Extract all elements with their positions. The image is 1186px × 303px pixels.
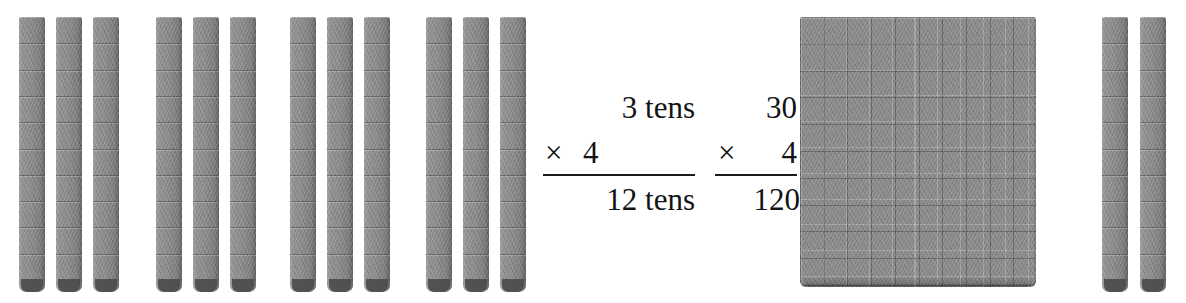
rod-unit-divider (1102, 122, 1128, 123)
rod-unit-divider (19, 175, 45, 176)
rod-unit-divider (426, 43, 452, 44)
rod-unit-divider (156, 227, 182, 228)
rod-unit-divider (327, 43, 353, 44)
rod-unit-divider (56, 254, 82, 255)
rod-unit-divider (156, 70, 182, 71)
rod-unit-divider (19, 43, 45, 44)
rod-unit-divider (93, 201, 119, 202)
rod-bottom-shadow (158, 279, 181, 292)
rod-unit-divider (1140, 43, 1166, 44)
rod-bottom-shadow (95, 279, 118, 292)
rod-unit-divider (1102, 43, 1128, 44)
rod-unit-divider (19, 122, 45, 123)
rod-unit-divider (500, 149, 526, 150)
rod-unit-divider (290, 254, 316, 255)
ten-rod (56, 17, 82, 292)
rod-unit-divider (93, 96, 119, 97)
rod-bottom-shadow (465, 279, 488, 292)
rod-unit-divider (500, 122, 526, 123)
rod-unit-divider (56, 43, 82, 44)
standard-multiplicand: 30 (766, 92, 797, 123)
rod-bottom-shadow (329, 279, 352, 292)
rod-texture (426, 17, 452, 292)
rod-unit-divider (1102, 227, 1128, 228)
rod-unit-divider (193, 122, 219, 123)
rod-bottom-shadow (1142, 279, 1165, 292)
standard-operator: × (718, 137, 735, 168)
rod-unit-divider (290, 201, 316, 202)
rod-unit-divider (230, 227, 256, 228)
rod-unit-divider (463, 175, 489, 176)
rod-unit-divider (230, 70, 256, 71)
rod-unit-divider (290, 227, 316, 228)
rod-unit-divider (156, 254, 182, 255)
rod-unit-divider (1140, 254, 1166, 255)
rod-unit-divider (193, 70, 219, 71)
ten-rod (230, 17, 256, 292)
rod-unit-divider (156, 96, 182, 97)
rod-unit-divider (230, 122, 256, 123)
rod-unit-divider (193, 201, 219, 202)
ten-rod (193, 17, 219, 292)
rod-unit-divider (93, 175, 119, 176)
rod-unit-divider (500, 201, 526, 202)
rod-unit-divider (327, 70, 353, 71)
rod-unit-divider (463, 70, 489, 71)
ten-rod (364, 17, 390, 292)
rod-unit-divider (19, 254, 45, 255)
rod-texture (56, 17, 82, 292)
rod-unit-divider (56, 122, 82, 123)
ten-rod (463, 17, 489, 292)
rod-unit-divider (193, 254, 219, 255)
rod-unit-divider (1140, 175, 1166, 176)
rod-unit-divider (364, 70, 390, 71)
rod-unit-divider (500, 70, 526, 71)
rod-unit-divider (364, 201, 390, 202)
equation-tens-form: 3 tens × 4 12 tens (545, 92, 705, 212)
tens-multiplicand: 3 tens (622, 92, 695, 123)
rod-unit-divider (56, 96, 82, 97)
rod-unit-divider (1140, 149, 1166, 150)
rod-unit-divider (1102, 96, 1128, 97)
ten-rod (19, 17, 45, 292)
rod-unit-divider (364, 254, 390, 255)
rod-unit-divider (500, 43, 526, 44)
rod-unit-divider (156, 201, 182, 202)
rod-bottom-shadow (21, 279, 44, 292)
rod-unit-divider (156, 122, 182, 123)
flat-unit-grid (800, 17, 1036, 287)
rod-unit-divider (56, 175, 82, 176)
rod-unit-divider (463, 122, 489, 123)
tens-equation-rule (543, 174, 695, 176)
rod-unit-divider (1140, 201, 1166, 202)
rod-unit-divider (230, 254, 256, 255)
rod-unit-divider (364, 149, 390, 150)
rod-unit-divider (93, 122, 119, 123)
rod-texture (364, 17, 390, 292)
rod-unit-divider (19, 96, 45, 97)
rod-unit-divider (56, 70, 82, 71)
rod-bottom-shadow (1104, 279, 1127, 292)
rod-unit-divider (290, 70, 316, 71)
rod-unit-divider (1102, 149, 1128, 150)
rod-unit-divider (19, 149, 45, 150)
rod-unit-divider (463, 227, 489, 228)
rod-unit-divider (364, 227, 390, 228)
rod-bottom-shadow (195, 279, 218, 292)
rod-unit-divider (193, 227, 219, 228)
rod-unit-divider (230, 149, 256, 150)
rod-unit-divider (19, 201, 45, 202)
rod-unit-divider (230, 96, 256, 97)
rod-unit-divider (426, 175, 452, 176)
rod-unit-divider (463, 43, 489, 44)
tens-operator: × (545, 137, 562, 168)
ten-rod (290, 17, 316, 292)
rod-unit-divider (290, 175, 316, 176)
rod-unit-divider (327, 227, 353, 228)
rod-texture (1140, 17, 1166, 292)
rod-unit-divider (290, 122, 316, 123)
rod-unit-divider (364, 175, 390, 176)
rod-unit-divider (56, 201, 82, 202)
rod-unit-divider (193, 43, 219, 44)
rod-unit-divider (327, 254, 353, 255)
